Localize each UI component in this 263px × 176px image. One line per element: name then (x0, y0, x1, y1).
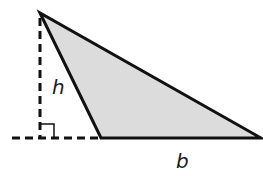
shaded-triangle (40, 13, 261, 138)
triangle-diagram: h b (0, 0, 263, 176)
base-label: b (176, 149, 189, 173)
right-angle-marker (40, 124, 54, 138)
height-label: h (52, 75, 65, 99)
